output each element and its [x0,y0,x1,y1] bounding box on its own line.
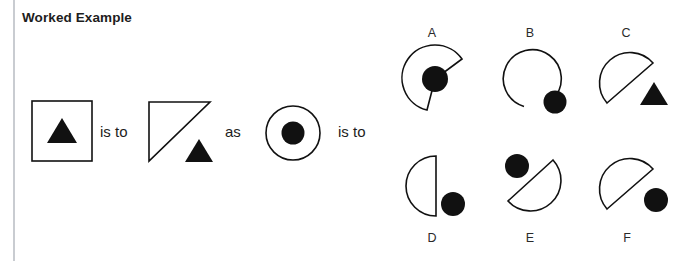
option-figure-f[interactable] [598,152,670,220]
half-circle-diagonal-outline [600,53,653,103]
figure-circle-with-dot [263,103,323,163]
left-accent-rule [13,0,15,261]
triangle-inner [47,118,77,143]
connector-is-to-2: is to [338,123,366,140]
dot-outer [644,188,668,212]
connector-as: as [225,123,241,140]
dot-inner [282,122,305,145]
figure-half-square-triangle-with-triangle [146,99,218,165]
option-label-c: C [614,26,638,40]
option-figure-e[interactable] [500,152,570,220]
option-label-a: A [420,26,444,40]
option-figure-d[interactable] [404,152,474,220]
option-label-b: B [518,26,542,40]
dot-outer [441,192,465,216]
dot-center [422,66,448,92]
option-figure-c[interactable] [598,46,670,112]
option-figure-b[interactable] [500,46,566,112]
triangle-outer [185,139,213,162]
figure-square-with-triangle [30,99,96,165]
triangle-outer [640,82,668,105]
dot-outer [505,154,529,178]
dot-perimeter [544,91,567,114]
page-title: Worked Example [22,10,132,25]
option-label-e: E [518,231,542,245]
option-label-f: F [615,231,639,245]
option-figure-a[interactable] [404,46,466,112]
option-label-d: D [420,231,444,245]
worked-example-panel: Worked Example is to as is to A B C D [0,0,688,261]
connector-is-to-1: is to [100,123,128,140]
half-circle-left-outline [406,156,436,216]
